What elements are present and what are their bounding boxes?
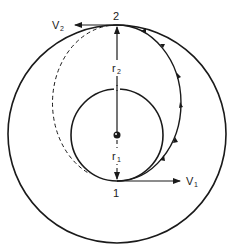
r2-label: r xyxy=(112,62,116,74)
hohmann-transfer-diagram: 2 1 V 2 V 1 r 2 r 1 xyxy=(0,0,229,251)
r1-subscript: 1 xyxy=(117,156,121,163)
v2-subscript: 2 xyxy=(60,25,64,32)
point-1-label: 1 xyxy=(113,187,119,199)
point-2-label: 2 xyxy=(113,10,119,22)
v2-label: V xyxy=(52,19,60,31)
transfer-orbit-dashed xyxy=(52,25,117,174)
v1-subscript: 1 xyxy=(194,181,198,188)
r1-label: r xyxy=(112,150,116,162)
central-body-icon xyxy=(114,132,121,139)
v1-label: V xyxy=(186,175,194,187)
r2-subscript: 2 xyxy=(117,68,121,75)
